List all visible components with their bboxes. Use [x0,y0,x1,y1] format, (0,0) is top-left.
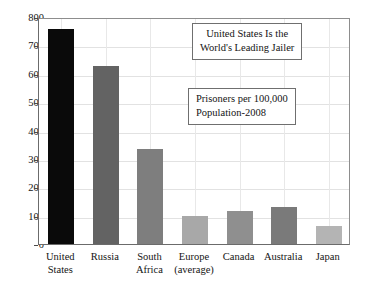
y-tick-mark [34,188,38,189]
gridline-horizontal [39,133,349,134]
y-tick-mark [34,18,38,19]
y-tick-mark [34,217,38,218]
annotation-units-line1: Prisoners per 100,000 [196,92,288,106]
bar-australia [271,207,297,244]
x-tick-label-line: United [38,250,83,263]
x-tick-label-line: Japan [305,250,350,263]
gridline-horizontal [39,161,349,162]
y-tick-mark [34,46,38,47]
gridline-horizontal [39,189,349,190]
annotation-leading-jailer: United States Is the World's Leading Jai… [192,23,302,60]
annotation-leading-jailer-line1: United States Is the [200,27,294,41]
bar-europe-average [182,216,208,244]
y-tick-mark [34,75,38,76]
bar-chart-figure: 8007006005004003002001000 UnitedStatesRu… [0,0,366,296]
bar-united-states [48,29,74,244]
x-tick-label: Australia [261,250,306,263]
x-tick-label: Canada [216,250,261,263]
bar-south-africa [137,149,163,244]
gridline-horizontal [39,76,349,77]
x-tick-label-line: Australia [261,250,306,263]
x-tick-label-line: South [127,250,172,263]
x-tick-label-line: Russia [83,250,128,263]
x-tick-label-line: States [38,263,83,276]
x-tick-label: UnitedStates [38,250,83,276]
x-tick-label: Europe(average) [172,250,217,276]
x-tick-label: Russia [83,250,128,263]
y-tick-mark [34,245,38,246]
bar-russia [93,66,119,244]
x-tick-label-line: Africa [127,263,172,276]
annotation-units-line2: Population-2008 [196,106,288,120]
y-tick-mark [34,160,38,161]
x-tick-label: Japan [305,250,350,263]
annotation-units: Prisoners per 100,000 Population-2008 [188,88,296,125]
y-tick-mark [34,132,38,133]
gridline-vertical [329,19,330,244]
x-tick-label-line: (average) [172,263,217,276]
x-tick-label: SouthAfrica [127,250,172,276]
x-tick-label-line: Europe [172,250,217,263]
bar-canada [227,211,253,244]
y-tick-mark [34,103,38,104]
annotation-leading-jailer-line2: World's Leading Jailer [200,41,294,55]
x-tick-label-line: Canada [216,250,261,263]
bar-japan [316,226,342,244]
